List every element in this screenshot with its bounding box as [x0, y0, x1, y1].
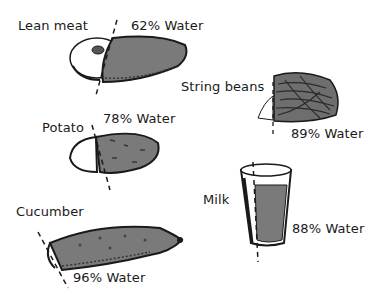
string-beans-label: String beans: [181, 79, 264, 94]
lean-meat-water-label: 62% Water: [131, 18, 203, 33]
potato-water-label: 78% Water: [103, 111, 175, 126]
cucumber-label: Cucumber: [16, 204, 84, 219]
cucumber-water-label: 96% Water: [73, 270, 145, 285]
milk-glass-illustration: [241, 162, 291, 262]
food-illustrations: [0, 0, 384, 302]
milk-water-label: 88% Water: [292, 221, 364, 236]
potato-label: Potato: [42, 120, 84, 135]
string-beans-water-label: 89% Water: [291, 126, 363, 141]
milk-label: Milk: [203, 192, 229, 207]
lean-meat-label: Lean meat: [18, 18, 88, 33]
